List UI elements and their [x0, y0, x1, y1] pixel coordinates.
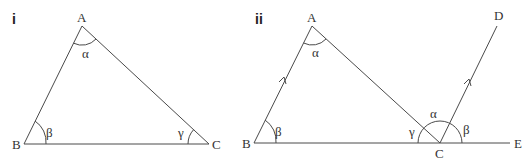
- vertex-label-c: C: [435, 146, 444, 161]
- vertex-label-a: A: [307, 10, 317, 25]
- side-ac: [312, 26, 440, 143]
- triangle-angle-diagram: i A B C α β γ ii A B C D E α β γ α β: [0, 0, 526, 162]
- angle-arc-a: [74, 39, 96, 45]
- angle-label-gamma: γ: [177, 125, 184, 140]
- side-ac: [82, 26, 209, 144]
- angle-label-alpha-c: α: [430, 106, 437, 121]
- angle-arc-c-semicircle: [418, 121, 462, 143]
- angle-label-gamma-c: γ: [408, 124, 415, 139]
- angle-label-alpha: α: [82, 46, 89, 61]
- angle-label-beta-c: β: [463, 122, 470, 137]
- angle-arc-b: [35, 121, 46, 144]
- panel-label-i: i: [12, 11, 16, 27]
- angle-label-alpha-a: α: [312, 45, 319, 60]
- vertex-label-e: E: [514, 136, 522, 151]
- panel-label-ii: ii: [255, 11, 263, 27]
- panel-ii: ii A B C D E α β γ α β: [242, 8, 522, 161]
- angle-arc-c: [188, 130, 194, 144]
- vertex-label-c: C: [212, 137, 221, 152]
- angle-label-beta-b: β: [275, 124, 282, 139]
- parallel-arrow-cd: [464, 79, 471, 86]
- angle-label-beta: β: [46, 125, 53, 140]
- vertex-label-b: B: [242, 136, 251, 151]
- vertex-label-b: B: [12, 137, 21, 152]
- vertex-label-d: D: [494, 8, 503, 23]
- panel-i: i A B C α β γ: [12, 10, 221, 152]
- side-ab: [24, 26, 82, 144]
- side-ab: [254, 26, 312, 143]
- vertex-label-a: A: [77, 10, 87, 25]
- parallel-arrow-ab: [279, 77, 286, 84]
